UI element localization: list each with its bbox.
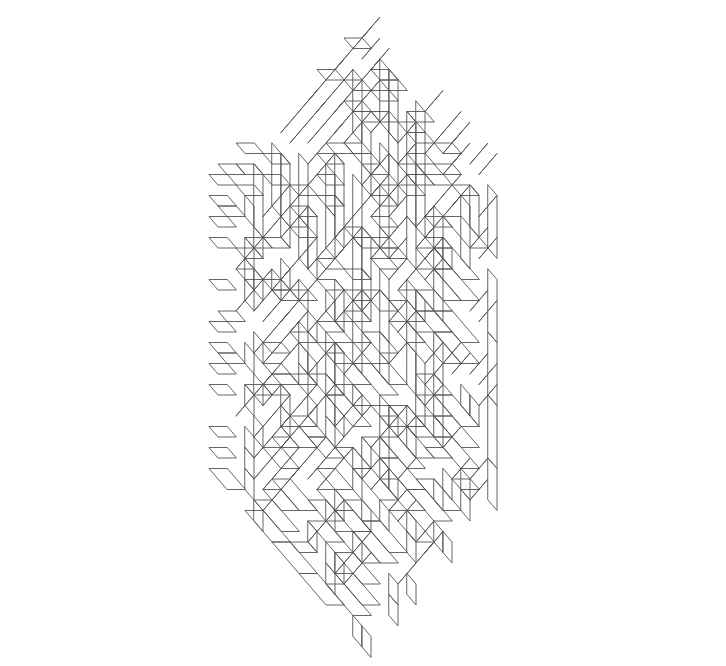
lozenge-tiling-figure: Hexagonal lozenge tiling Monochrome line… — [0, 0, 726, 666]
